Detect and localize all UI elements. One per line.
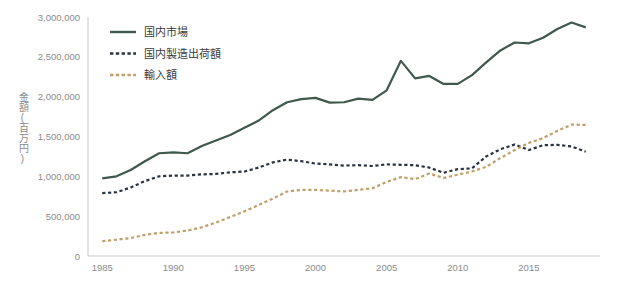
y-tick-label: 1,500,000 [38, 131, 80, 142]
y-tick-label: 500,000 [46, 211, 80, 222]
x-tick-label: 2000 [305, 262, 326, 273]
x-tick-label: 1985 [92, 262, 113, 273]
x-tick-label: 1995 [234, 262, 255, 273]
x-tick-label: 2015 [518, 262, 539, 273]
series-line-1 [102, 23, 586, 179]
y-tick-label: 3,000,000 [38, 12, 80, 23]
legend-label-3: 輸入額 [144, 68, 177, 81]
y-axis-tick-labels: 0500,0001,000,0001,500,0002,000,0002,500… [38, 12, 80, 262]
y-tick-label: 2,500,000 [38, 51, 80, 62]
x-axis-tick-labels: 1985199019952000200520102015 [92, 262, 540, 273]
legend-label-1: 国内市場 [144, 25, 188, 38]
x-tick-label: 1990 [163, 262, 184, 273]
x-tick-label: 2010 [447, 262, 468, 273]
x-tick-label: 2005 [376, 262, 397, 273]
chart-legend: 国内市場国内製造出荷額輸入額 [110, 25, 221, 81]
chart-container: 金額(百万円) 0500,0001,000,0001,500,0002,000,… [0, 0, 617, 285]
line-chart: 0500,0001,000,0001,500,0002,000,0002,500… [0, 0, 617, 285]
y-tick-label: 0 [75, 251, 80, 262]
y-tick-label: 1,000,000 [38, 171, 80, 182]
series-line-3 [102, 125, 586, 242]
legend-label-2: 国内製造出荷額 [144, 47, 221, 60]
y-tick-label: 2,000,000 [38, 91, 80, 102]
